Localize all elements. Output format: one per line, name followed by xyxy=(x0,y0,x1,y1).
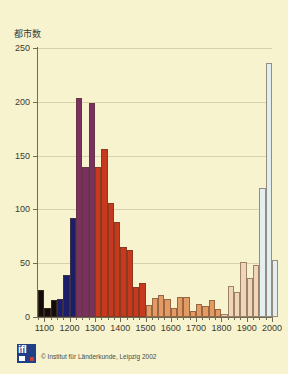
x-minor-tick-mark xyxy=(266,318,267,320)
x-tick-mark xyxy=(247,318,248,322)
x-minor-tick-mark xyxy=(228,318,229,320)
x-tick-mark xyxy=(120,318,121,322)
x-minor-tick-mark xyxy=(253,318,254,320)
histogram-figure: 都市数 050100150200250 11001200130014001500… xyxy=(0,0,288,374)
x-minor-tick-mark xyxy=(51,318,52,320)
x-minor-tick-mark xyxy=(164,318,165,320)
x-minor-tick-mark xyxy=(183,318,184,320)
x-tick-mark xyxy=(221,318,222,322)
x-minor-tick-mark xyxy=(89,318,90,320)
x-tick-mark xyxy=(171,318,172,322)
x-tick-mark xyxy=(272,318,273,322)
x-minor-tick-mark xyxy=(114,318,115,320)
x-tick-mark xyxy=(95,318,96,322)
ifl-logo-icon: ifl xyxy=(17,344,36,363)
x-minor-tick-mark xyxy=(190,318,191,320)
x-minor-tick-mark xyxy=(133,318,134,320)
x-minor-tick-mark xyxy=(152,318,153,320)
x-tick-mark xyxy=(146,318,147,322)
x-minor-tick-mark xyxy=(76,318,77,320)
x-tick-label: 2000 xyxy=(257,324,287,333)
x-minor-tick-mark xyxy=(139,318,140,320)
x-minor-tick-mark xyxy=(209,318,210,320)
x-tick-mark xyxy=(70,318,71,322)
x-minor-tick-mark xyxy=(38,318,39,320)
copyright-text: © Institut für Länderkunde, Leipzig 2002 xyxy=(41,353,156,361)
x-tick-mark xyxy=(44,318,45,322)
x-axis-ticks: 1100120013001400150016001700180019002000 xyxy=(0,0,288,374)
x-minor-tick-mark xyxy=(158,318,159,320)
x-minor-tick-mark xyxy=(234,318,235,320)
x-minor-tick-mark xyxy=(127,318,128,320)
x-minor-tick-mark xyxy=(259,318,260,320)
x-minor-tick-mark xyxy=(177,318,178,320)
x-minor-tick-mark xyxy=(82,318,83,320)
x-minor-tick-mark xyxy=(63,318,64,320)
ifl-logo-dot xyxy=(30,357,34,361)
x-minor-tick-mark xyxy=(202,318,203,320)
x-tick-mark xyxy=(196,318,197,322)
x-minor-tick-mark xyxy=(101,318,102,320)
ifl-logo-text: ifl xyxy=(18,344,26,355)
x-minor-tick-mark xyxy=(57,318,58,320)
credit-footer: ifl © Institut für Länderkunde, Leipzig … xyxy=(17,344,156,363)
x-minor-tick-mark xyxy=(240,318,241,320)
x-minor-tick-mark xyxy=(108,318,109,320)
ifl-logo-bar xyxy=(19,356,25,361)
x-minor-tick-mark xyxy=(215,318,216,320)
